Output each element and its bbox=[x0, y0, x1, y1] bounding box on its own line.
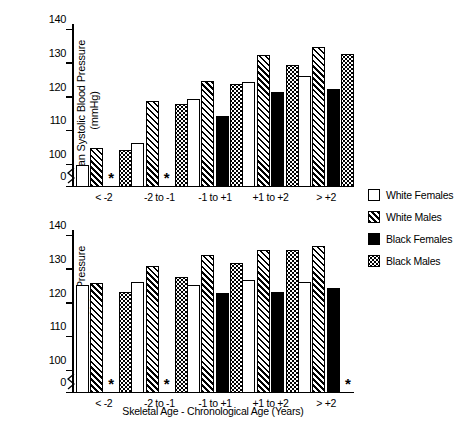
bar bbox=[257, 55, 270, 187]
bar bbox=[90, 148, 103, 187]
bar bbox=[175, 104, 188, 187]
missing-data-asterisk: * bbox=[160, 170, 173, 185]
y-axis-tick bbox=[66, 62, 72, 64]
legend-swatch-solid-icon bbox=[368, 233, 380, 245]
bar bbox=[312, 47, 325, 187]
legend-item: White Males bbox=[368, 210, 467, 228]
plot-area-top: Mean Systolic Blood Pressure(mmHg) 10011… bbox=[72, 24, 354, 187]
bar-group: *-2 to -1 bbox=[131, 230, 188, 393]
y-axis-tick-label: 100 bbox=[38, 149, 66, 160]
bar bbox=[76, 285, 89, 393]
bar-group: *> +2 bbox=[298, 230, 355, 393]
missing-data-asterisk: * bbox=[105, 376, 118, 391]
y-axis-tick-label: 110 bbox=[38, 321, 66, 332]
bar bbox=[230, 84, 243, 187]
bar bbox=[201, 81, 214, 187]
legend-item: Black Females bbox=[368, 232, 467, 250]
bar bbox=[230, 263, 243, 393]
bar bbox=[327, 89, 340, 187]
y-axis-tick bbox=[66, 130, 72, 132]
bar bbox=[286, 65, 299, 187]
bar bbox=[216, 293, 229, 393]
legend-swatch-open-icon bbox=[368, 189, 380, 201]
y-axis-tick-label: 130 bbox=[38, 253, 66, 264]
y-axis-tick-label: 120 bbox=[38, 81, 66, 92]
bar bbox=[146, 101, 159, 187]
bar bbox=[146, 266, 159, 393]
bar-group: -1 to +1 bbox=[187, 230, 244, 393]
legend: White FemalesWhite MalesBlack FemalesBla… bbox=[368, 188, 467, 276]
bar bbox=[119, 150, 132, 187]
y-axis-tick-label: 130 bbox=[38, 47, 66, 58]
bar-group: *< -2 bbox=[76, 230, 133, 393]
bar-group: > +2 bbox=[298, 24, 355, 187]
x-axis-category-label: +1 to +2 bbox=[253, 192, 289, 203]
y-axis-tick-label: 140 bbox=[38, 220, 66, 231]
bar bbox=[298, 282, 311, 393]
bar bbox=[119, 292, 132, 393]
bar bbox=[90, 283, 103, 393]
bar bbox=[271, 292, 284, 393]
bar-group: +1 to +2 bbox=[242, 230, 299, 393]
y-axis-line-bottom bbox=[72, 230, 74, 393]
y-axis-tick-label-zero: 0 bbox=[38, 171, 66, 182]
bar bbox=[131, 282, 144, 393]
bar bbox=[271, 92, 284, 187]
missing-data-asterisk: * bbox=[160, 376, 173, 391]
bar-group: +1 to +2 bbox=[242, 24, 299, 187]
y-axis-tick-label: 110 bbox=[38, 115, 66, 126]
legend-swatch-hatch-icon bbox=[368, 211, 380, 223]
bar bbox=[327, 288, 340, 393]
bar bbox=[76, 165, 89, 187]
legend-item: Black Males bbox=[368, 254, 467, 272]
bar-group: *< -2 bbox=[76, 24, 133, 187]
bar bbox=[242, 280, 255, 393]
bar bbox=[312, 246, 325, 393]
bar-group: -1 to +1 bbox=[187, 24, 244, 187]
x-axis-title: Skeletal Age - Chronological Age (Years) bbox=[72, 405, 354, 417]
legend-label: Black Males bbox=[386, 254, 440, 268]
y-axis-tick-zero bbox=[66, 392, 72, 394]
bar bbox=[257, 250, 270, 394]
legend-label: White Males bbox=[386, 210, 442, 224]
bar bbox=[341, 54, 354, 187]
bar bbox=[286, 250, 299, 394]
legend-swatch-dot-icon bbox=[368, 255, 380, 267]
bar bbox=[131, 143, 144, 187]
legend-label: Black Females bbox=[386, 232, 452, 246]
bar-group: *-2 to -1 bbox=[131, 24, 188, 187]
y-axis-tick-label: 140 bbox=[38, 14, 66, 25]
y-axis-tick-zero bbox=[66, 186, 72, 188]
y-axis-tick bbox=[66, 336, 72, 338]
y-axis-tick bbox=[66, 96, 72, 98]
y-axis-tick-label: 100 bbox=[38, 355, 66, 366]
y-axis-tick bbox=[66, 235, 72, 237]
plot-area-bottom: Mean Systolic Blood Pressure(mmHg) 10011… bbox=[72, 230, 354, 393]
y-axis-tick bbox=[66, 268, 72, 270]
legend-label: White Females bbox=[386, 188, 453, 202]
missing-data-asterisk: * bbox=[105, 170, 118, 185]
y-axis-line-top bbox=[72, 24, 74, 187]
figure-bar-chart-systolic-blood-pressure: Mean Systolic Blood Pressure(mmHg) 10011… bbox=[0, 0, 467, 430]
chart-panel-top: Mean Systolic Blood Pressure(mmHg) 10011… bbox=[0, 0, 360, 212]
y-axis-tick bbox=[66, 29, 72, 31]
x-axis-category-label: < -2 bbox=[95, 192, 112, 203]
chart-panel-bottom: Mean Systolic Blood Pressure(mmHg) 10011… bbox=[0, 212, 360, 430]
bar bbox=[201, 255, 214, 393]
bar bbox=[298, 76, 311, 187]
bar bbox=[187, 285, 200, 393]
missing-data-asterisk: * bbox=[341, 376, 354, 391]
y-axis-tick bbox=[66, 302, 72, 304]
y-axis-tick-label: 120 bbox=[38, 287, 66, 298]
bar bbox=[187, 99, 200, 187]
y-axis-tick bbox=[66, 164, 72, 166]
bar bbox=[242, 82, 255, 187]
bar bbox=[216, 116, 229, 187]
x-axis-category-label: -2 to -1 bbox=[144, 192, 175, 203]
y-axis-tick bbox=[66, 370, 72, 372]
x-axis-category-label: > +2 bbox=[316, 192, 336, 203]
y-axis-tick-label-zero: 0 bbox=[38, 377, 66, 388]
x-axis-category-label: -1 to +1 bbox=[198, 192, 232, 203]
legend-item: White Females bbox=[368, 188, 467, 206]
bar bbox=[175, 277, 188, 394]
